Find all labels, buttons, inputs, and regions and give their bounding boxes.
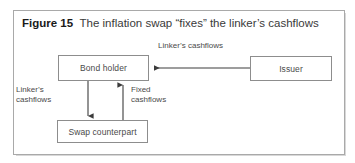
edge-label-linkers-cashflows-top: Linker’s cashflows bbox=[158, 41, 223, 51]
node-swap-counterpart-label: Swap counterpart bbox=[68, 127, 136, 137]
figure-caption-label: Figure 15 bbox=[22, 17, 73, 29]
edge-label-linkers-cashflows-left: Linker’s cashflows bbox=[16, 85, 51, 105]
edge-label-fixed-cashflows-line1: Fixed bbox=[131, 85, 166, 95]
node-issuer-label: Issuer bbox=[279, 64, 303, 74]
edge-label-linkers-cashflows-left-line1: Linker’s bbox=[16, 85, 51, 95]
edge-label-fixed-cashflows: Fixed cashflows bbox=[131, 85, 166, 105]
figure-root: Figure 15 The inflation swap “fixes” the… bbox=[0, 0, 355, 163]
edge-label-linkers-cashflows-top-text: Linker’s cashflows bbox=[158, 41, 223, 50]
edge-label-linkers-cashflows-left-line2: cashflows bbox=[16, 95, 51, 105]
node-bond-holder: Bond holder bbox=[58, 55, 149, 81]
node-bond-holder-label: Bond holder bbox=[80, 63, 127, 73]
edge-label-fixed-cashflows-line2: cashflows bbox=[131, 95, 166, 105]
figure-caption-text: The inflation swap “fixes” the linker’s … bbox=[80, 17, 319, 29]
node-swap-counterpart: Swap counterpart bbox=[57, 120, 148, 143]
node-issuer: Issuer bbox=[250, 56, 332, 81]
figure-caption: Figure 15 The inflation swap “fixes” the… bbox=[22, 16, 340, 30]
